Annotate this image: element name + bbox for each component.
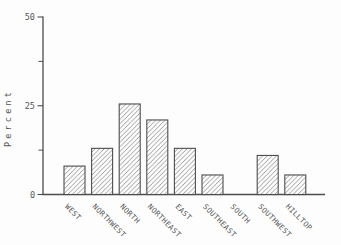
y-tick-label: 0	[30, 190, 35, 200]
y-tick-label: 50	[25, 12, 35, 22]
y-tick-label: 25	[25, 101, 35, 111]
bar-hilltop	[285, 175, 306, 195]
bar-north	[119, 104, 140, 195]
x-tick-label-north: NORTH	[118, 202, 142, 226]
x-tick-label-south: SOUTH	[229, 202, 253, 226]
x-tick-label-west: WEST	[63, 202, 83, 222]
bar-northeast	[147, 120, 168, 195]
bar-chart-svg: 02550PercentWESTNORTHWESTNORTHNORTHEASTE…	[0, 0, 341, 245]
bar-southeast	[202, 175, 223, 195]
x-tick-label-east: EAST	[173, 202, 193, 222]
bar-east	[174, 148, 195, 194]
bar-chart-figure: 02550PercentWESTNORTHWESTNORTHNORTHEASTE…	[0, 0, 341, 245]
bar-west	[64, 166, 85, 194]
bar-northwest	[92, 148, 113, 194]
bar-southwest	[257, 155, 278, 194]
y-axis-label: Percent	[3, 89, 13, 147]
